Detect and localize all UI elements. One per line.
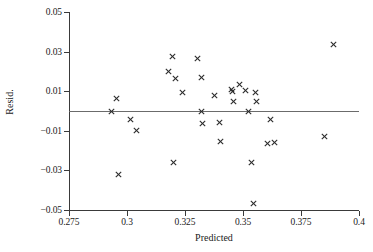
y-tick-mark (64, 91, 69, 92)
data-point-marker (248, 159, 255, 166)
data-point-marker (170, 159, 177, 166)
x-tick-label: 0.4 (336, 217, 373, 228)
data-point-marker (228, 86, 235, 93)
x-tick-label: 0.275 (46, 217, 92, 228)
y-tick-label: −0.05 (6, 205, 62, 215)
data-point-marker (217, 138, 224, 145)
data-point-marker (267, 116, 274, 123)
x-tick-mark (301, 211, 302, 216)
x-tick-mark (69, 211, 70, 216)
y-tick-label: 0.03 (6, 47, 62, 57)
x-tick-mark (243, 211, 244, 216)
x-tick-mark (127, 211, 128, 216)
data-point-marker (127, 116, 134, 123)
data-point-marker (321, 133, 328, 140)
data-point-marker (271, 139, 278, 146)
data-point-marker (115, 171, 122, 178)
y-tick-mark (64, 52, 69, 53)
data-point-marker (133, 127, 140, 134)
x-axis-line (69, 210, 359, 211)
x-tick-label: 0.325 (162, 217, 208, 228)
data-point-marker (198, 74, 205, 81)
data-point-marker (236, 81, 243, 88)
zero-reference-line (69, 111, 359, 112)
x-axis-title: Predicted (69, 232, 359, 244)
y-tick-mark (64, 131, 69, 132)
residual-scatter-plot: 0.050.030.01−0.01−0.03−0.05 0.2750.30.32… (0, 0, 373, 252)
data-point-marker (229, 88, 236, 95)
data-point-marker (194, 55, 201, 62)
data-point-marker (165, 68, 172, 75)
data-point-marker (169, 53, 176, 60)
y-tick-mark (64, 170, 69, 171)
data-point-marker (250, 200, 257, 207)
data-point-marker (330, 41, 337, 48)
data-point-marker (252, 89, 259, 96)
y-tick-mark (64, 12, 69, 13)
data-point-marker (211, 92, 218, 99)
y-tick-label: 0.05 (6, 7, 62, 17)
y-axis-title: Resid. (4, 72, 16, 132)
x-tick-mark (185, 211, 186, 216)
data-point-marker (179, 89, 186, 96)
x-tick-label: 0.3 (104, 217, 150, 228)
data-point-marker (172, 75, 179, 82)
y-tick-label: −0.03 (6, 165, 62, 175)
data-point-marker (242, 87, 249, 94)
x-tick-mark (359, 211, 360, 216)
data-point-marker (113, 95, 120, 102)
x-tick-label: 0.35 (220, 217, 266, 228)
data-point-marker (264, 140, 271, 147)
data-point-marker (199, 120, 206, 127)
data-point-marker (230, 98, 237, 105)
data-point-marker (253, 98, 260, 105)
x-tick-label: 0.375 (278, 217, 324, 228)
data-point-marker (216, 119, 223, 126)
